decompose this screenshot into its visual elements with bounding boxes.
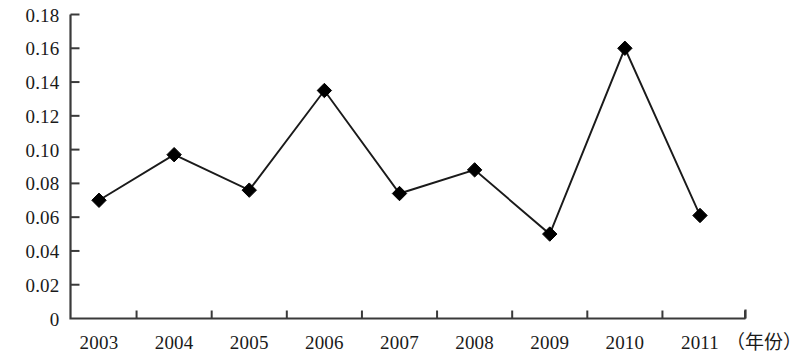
x-axis-tick-label: 2007 bbox=[360, 333, 440, 352]
x-axis-title: （年份） bbox=[726, 333, 802, 352]
y-axis-tick-label: 0.12 bbox=[25, 107, 59, 126]
x-axis-tick-label: 2008 bbox=[435, 333, 515, 352]
data-point-marker bbox=[242, 183, 256, 197]
x-axis-tick-label: 2006 bbox=[284, 333, 364, 352]
x-axis-ticks bbox=[137, 311, 745, 319]
data-point-marker bbox=[618, 41, 632, 55]
y-axis-tick-label: 0.10 bbox=[25, 141, 59, 160]
y-axis-tick-label: 0.04 bbox=[25, 242, 59, 261]
data-series-line bbox=[99, 48, 700, 234]
line-chart: 00.020.040.060.080.100.120.140.160.18 20… bbox=[0, 0, 807, 357]
chart-axes bbox=[71, 15, 746, 319]
x-axis-tick-label: 2009 bbox=[510, 333, 590, 352]
x-axis-tick-label: 2004 bbox=[134, 333, 214, 352]
data-point-marker bbox=[693, 208, 707, 222]
y-axis-tick-label: 0.18 bbox=[25, 6, 59, 25]
y-axis-ticks bbox=[71, 15, 80, 285]
data-point-marker bbox=[92, 193, 106, 207]
y-axis-tick-label: 0.16 bbox=[25, 39, 59, 58]
data-point-marker bbox=[392, 186, 406, 200]
x-axis-tick-label: 2005 bbox=[209, 333, 289, 352]
y-axis-tick-label: 0.06 bbox=[25, 208, 59, 227]
data-point-marker bbox=[167, 147, 181, 161]
y-axis-tick-label: 0.02 bbox=[25, 276, 59, 295]
y-axis-tick-label: 0.08 bbox=[25, 174, 59, 193]
y-axis-tick-label: 0 bbox=[50, 310, 60, 329]
x-axis-tick-label: 2010 bbox=[585, 333, 665, 352]
data-point-marker bbox=[317, 83, 331, 97]
chart-plot-area bbox=[0, 0, 807, 357]
y-axis-tick-label: 0.14 bbox=[25, 73, 59, 92]
x-axis-tick-label: 2003 bbox=[59, 333, 139, 352]
